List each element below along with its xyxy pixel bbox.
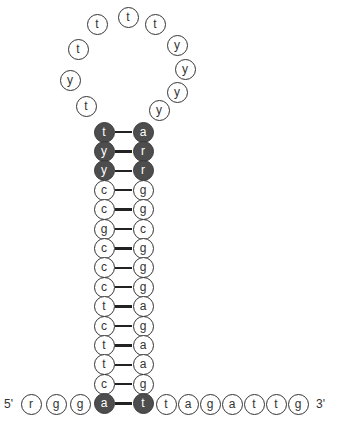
three-prime-tail-nucleotide: g [200, 394, 221, 415]
stem-left-nucleotide: c [94, 199, 115, 220]
loop-nucleotide: t [145, 14, 166, 35]
stem-right-nucleotide: a [133, 335, 154, 356]
stem-left-nucleotide: t [94, 122, 115, 143]
base-pair-bond [115, 364, 132, 367]
loop-nucleotide: t [118, 7, 139, 28]
stem-right-nucleotide: r [133, 160, 154, 181]
stem-left-nucleotide: c [94, 257, 115, 278]
loop-nucleotide: t [87, 14, 108, 35]
stem-right-nucleotide: r [133, 141, 154, 162]
stem-left-nucleotide: c [94, 277, 115, 298]
stem-left-nucleotide: c [94, 180, 115, 201]
base-pair-bond [115, 170, 132, 173]
stem-left-nucleotide: y [94, 160, 115, 181]
base-pair-bond [115, 325, 132, 328]
loop-nucleotide: y [60, 70, 81, 91]
base-pair-bond [115, 267, 132, 270]
five-prime-tail-nucleotide: g [70, 394, 91, 415]
loop-nucleotide: t [68, 39, 89, 60]
three-prime-label: 3' [316, 397, 325, 411]
five-prime-tail-nucleotide: g [46, 394, 67, 415]
base-pair-bond [115, 247, 132, 250]
stem-left-nucleotide: c [94, 374, 115, 395]
base-pair-bond [115, 208, 132, 211]
stem-right-nucleotide: g [133, 374, 154, 395]
base-pair-bond [115, 402, 132, 405]
three-prime-tail-nucleotide: a [178, 394, 199, 415]
loop-nucleotide: t [76, 96, 97, 117]
three-prime-tail-nucleotide: t [244, 394, 265, 415]
base-pair-bond [115, 344, 132, 347]
stem-left-nucleotide: t [94, 335, 115, 356]
stem-right-nucleotide: g [133, 316, 154, 337]
stem-right-nucleotide: t [133, 393, 154, 414]
three-prime-tail-nucleotide: t [266, 394, 287, 415]
three-prime-tail-nucleotide: g [288, 394, 309, 415]
stem-left-nucleotide: c [94, 238, 115, 259]
stem-right-nucleotide: a [133, 296, 154, 317]
base-pair-bond [115, 131, 132, 134]
base-pair-bond [115, 383, 132, 386]
stem-right-nucleotide: a [133, 122, 154, 143]
loop-nucleotide: y [149, 100, 170, 121]
base-pair-bond [115, 228, 132, 231]
base-pair-bond [115, 305, 132, 308]
five-prime-tail-nucleotide: r [21, 394, 42, 415]
stem-left-nucleotide: y [94, 141, 115, 162]
base-pair-bond [115, 286, 132, 289]
stem-left-nucleotide: t [94, 296, 115, 317]
stem-left-nucleotide: a [94, 393, 115, 414]
loop-nucleotide: y [167, 35, 188, 56]
stem-right-nucleotide: g [133, 277, 154, 298]
three-prime-tail-nucleotide: t [156, 394, 177, 415]
stem-right-nucleotide: g [133, 257, 154, 278]
stem-left-nucleotide: c [94, 316, 115, 337]
five-prime-label: 5' [4, 397, 13, 411]
stem-right-nucleotide: g [133, 238, 154, 259]
base-pair-bond [115, 189, 132, 192]
stem-right-nucleotide: a [133, 354, 154, 375]
stem-right-nucleotide: g [133, 199, 154, 220]
loop-nucleotide: y [167, 82, 188, 103]
three-prime-tail-nucleotide: a [222, 394, 243, 415]
base-pair-bond [115, 150, 132, 153]
stem-left-nucleotide: t [94, 354, 115, 375]
stem-right-nucleotide: g [133, 180, 154, 201]
stem-right-nucleotide: c [133, 219, 154, 240]
loop-nucleotide: y [175, 59, 196, 80]
stem-left-nucleotide: g [94, 219, 115, 240]
